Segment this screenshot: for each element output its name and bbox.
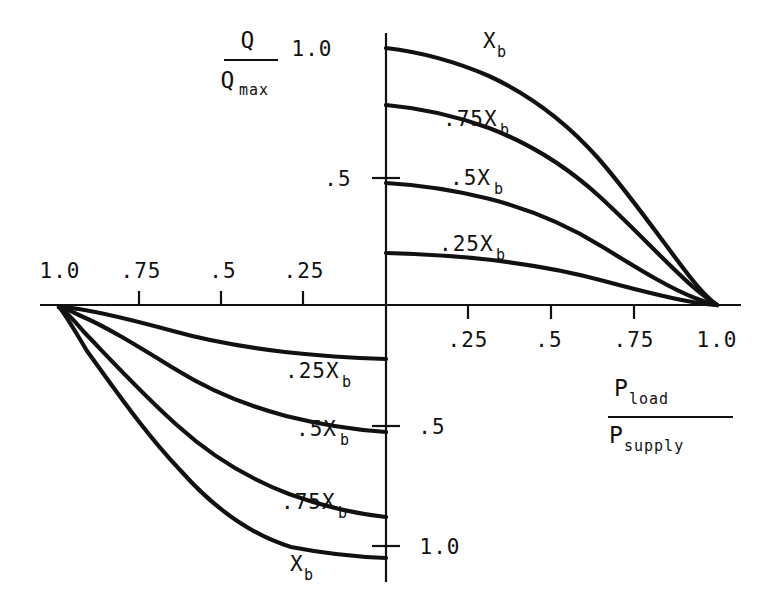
curve-075xb	[386, 105, 717, 305]
curve-label-075xb-main: .75X	[443, 107, 498, 131]
curve-xb-mirror	[59, 307, 386, 558]
ticklabel-x-right-075: .75	[614, 328, 655, 352]
ticklabel-x-left-075: .75	[121, 259, 162, 283]
curve-label-xb-mirror-main: X	[290, 552, 304, 576]
curve-label-05xb-main: .5X	[450, 166, 491, 190]
curve-label-xb-sub: b	[497, 43, 507, 61]
ticklabel-x-right-025: .25	[448, 328, 489, 352]
tick-labels-group: 1.0 .5 .5 1.0 .25 .5 .75 1.0 1.0 .75 .5 …	[40, 37, 738, 559]
curve-labels-upper-right: X b .75X b .5X b .25X b	[439, 29, 510, 264]
ticklabel-y-bottom: 1.0	[420, 535, 461, 559]
curve-xb	[386, 48, 717, 305]
curve-label-075xb-mirror: .75X b	[281, 490, 348, 522]
curve-075xb-mirror	[59, 307, 386, 517]
y-axis-label-numerator: Q	[241, 27, 256, 53]
ticklabel-y-mid-upper: .5	[324, 167, 351, 191]
chart-figure: 1.0 .5 .5 1.0 .25 .5 .75 1.0 1.0 .75 .5 …	[0, 0, 773, 604]
ticklabel-y-mid-lower: .5	[418, 415, 445, 439]
ticklabel-x-left-025: .25	[284, 259, 325, 283]
curve-label-xb-mirror-sub: b	[304, 566, 314, 584]
curve-label-025xb-mirror: .25X b	[285, 359, 352, 391]
y-axis-label-denominator: Q	[221, 67, 236, 93]
curves-upper-right	[386, 48, 717, 305]
curve-label-025xb-sub: b	[496, 246, 506, 264]
x-axis-label: P load P supply	[608, 375, 733, 455]
ticklabel-x-right-10: 1.0	[697, 328, 738, 352]
curves-lower-left	[59, 307, 386, 558]
curve-label-075xb-mirror-main: .75X	[281, 490, 336, 514]
curve-label-xb-main: X	[483, 29, 497, 53]
curve-label-05xb-mirror-main: .5X	[296, 417, 337, 441]
curve-label-05xb-mirror-sub: b	[340, 431, 350, 449]
curve-label-025xb-main: .25X	[439, 232, 494, 256]
curve-label-075xb-sub: b	[500, 121, 510, 139]
ticklabel-x-left-05: .5	[209, 259, 236, 283]
y-axis-label-denominator-sub: max	[239, 81, 269, 99]
x-axis-label-denominator-sub: supply	[624, 437, 684, 455]
x-axis-label-numerator-sub: load	[629, 390, 669, 408]
chart-svg: 1.0 .5 .5 1.0 .25 .5 .75 1.0 1.0 .75 .5 …	[0, 0, 773, 604]
curve-label-075xb-mirror-sub: b	[338, 504, 348, 522]
y-axis-label: Q Q max	[221, 27, 278, 99]
x-axis-label-denominator: P	[609, 422, 624, 448]
curve-025xb-mirror	[59, 307, 386, 359]
curve-label-05xb-sub: b	[494, 180, 504, 198]
curve-label-075xb: .75X b	[443, 107, 510, 139]
curve-label-xb-mirror: X b	[290, 552, 314, 584]
ticklabel-x-left-10: 1.0	[40, 259, 81, 283]
x-axis-label-numerator: P	[614, 375, 629, 401]
curve-label-025xb-mirror-main: .25X	[285, 359, 340, 383]
ticklabel-y-top: 1.0	[292, 37, 333, 61]
axes-group	[40, 33, 741, 582]
curve-label-xb: X b	[483, 29, 507, 61]
curve-label-025xb-mirror-sub: b	[342, 373, 352, 391]
ticklabel-x-right-05: .5	[535, 328, 562, 352]
curve-label-05xb-mirror: .5X b	[296, 417, 350, 449]
